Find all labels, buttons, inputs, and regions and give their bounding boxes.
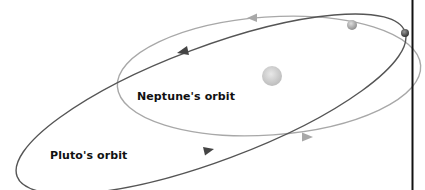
pluto-direction-arrow-top [177,46,189,55]
pluto-direction-arrow-bottom [203,147,214,156]
pluto-orbit-label: Pluto's orbit [50,149,127,162]
neptune-direction-arrow-bottom [302,133,313,142]
neptune-direction-arrow-top [247,14,257,23]
neptune-orbit-label: Neptune's orbit [137,90,235,103]
neptune-planet-icon [347,20,357,30]
sun-icon [262,66,282,86]
pluto-planet-icon [401,29,409,37]
